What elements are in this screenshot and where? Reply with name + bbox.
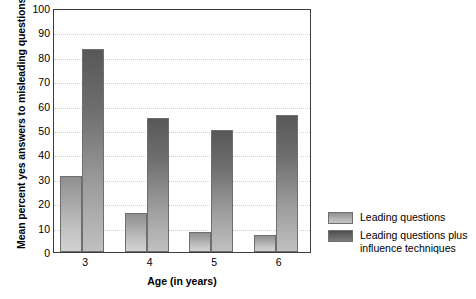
- y-axis-tick-labels: 0102030405060708090100: [24, 9, 50, 253]
- legend-swatch-icon: [328, 212, 353, 224]
- chart-legend: Leading questionsLeading questions plus …: [328, 211, 474, 260]
- bar: [189, 232, 211, 252]
- x-axis-tick-labels: 3456: [53, 256, 311, 272]
- y-tick-label: 80: [24, 53, 50, 64]
- bar-chart-figure: Mean percent yes answers to misleading q…: [0, 0, 476, 299]
- bar-group: [119, 10, 184, 252]
- plot-area: [53, 9, 311, 253]
- y-tick-label: 0: [24, 248, 50, 259]
- bars-layer: [54, 10, 310, 252]
- bar: [254, 235, 276, 252]
- bar-group: [54, 10, 119, 252]
- y-tick-label: 10: [24, 223, 50, 234]
- y-tick-label: 90: [24, 28, 50, 39]
- y-tick-label: 40: [24, 150, 50, 161]
- bar: [82, 49, 104, 252]
- y-tick-label: 60: [24, 101, 50, 112]
- bar: [276, 115, 298, 252]
- legend-item: Leading questions: [328, 211, 474, 224]
- y-tick-label: 20: [24, 199, 50, 210]
- bar-group: [248, 10, 312, 252]
- y-tick-label: 30: [24, 175, 50, 186]
- legend-item: Leading questions plus influence techniq…: [328, 229, 474, 255]
- x-axis-title: Age (in years): [53, 275, 311, 287]
- x-tick-label: 3: [65, 256, 105, 268]
- x-tick-label: 6: [259, 256, 299, 268]
- y-tick-label: 70: [24, 77, 50, 88]
- legend-label: Leading questions plus influence techniq…: [360, 229, 467, 255]
- bar: [125, 213, 147, 252]
- bar: [147, 118, 169, 252]
- bar: [211, 130, 233, 252]
- x-tick-label: 4: [130, 256, 170, 268]
- legend-label: Leading questions: [360, 211, 445, 224]
- y-tick-label: 100: [24, 4, 50, 15]
- legend-swatch-icon: [328, 230, 353, 242]
- x-tick-label: 5: [194, 256, 234, 268]
- bar-group: [183, 10, 248, 252]
- bar: [60, 176, 82, 252]
- y-tick-label: 50: [24, 126, 50, 137]
